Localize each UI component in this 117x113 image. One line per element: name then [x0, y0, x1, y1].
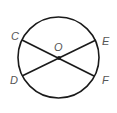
label-d: D: [10, 74, 18, 86]
label-o: O: [54, 41, 63, 53]
label-c: C: [11, 30, 19, 42]
circle-diagram-svg: O C D E F: [0, 0, 117, 113]
geometry-diagram: O C D E F: [0, 0, 117, 113]
center-point: [57, 56, 61, 60]
label-f: F: [102, 74, 110, 86]
label-e: E: [102, 35, 110, 47]
